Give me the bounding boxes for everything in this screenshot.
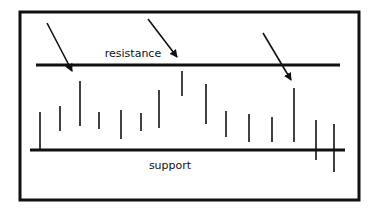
arrow-icon [263, 33, 291, 80]
support-label: support [149, 159, 192, 172]
touch-arrows [47, 19, 291, 80]
resistance-label: resistance [105, 47, 162, 60]
price-bars [40, 71, 334, 172]
support-resistance-diagram: resistance support [0, 0, 383, 213]
